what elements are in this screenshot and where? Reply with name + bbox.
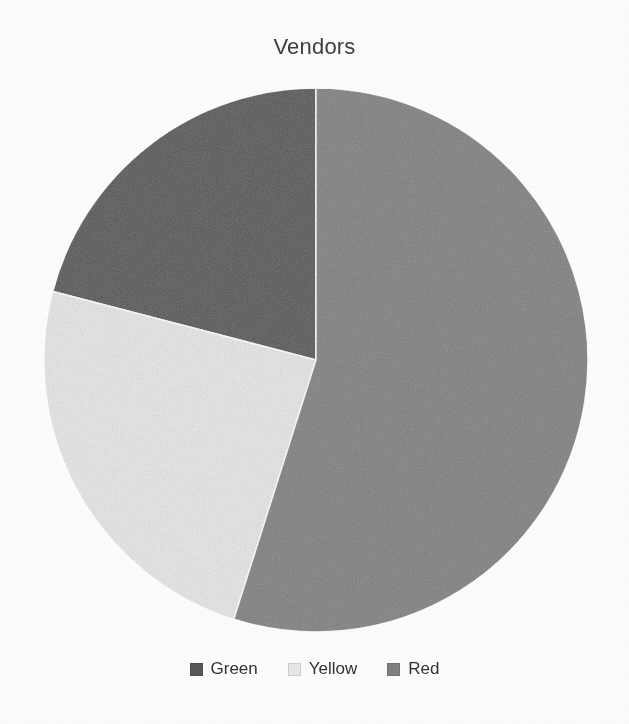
legend-label-yellow: Yellow xyxy=(309,659,358,679)
legend-item-red[interactable]: Red xyxy=(387,659,439,679)
legend-label-red: Red xyxy=(408,659,439,679)
legend-label-green: Green xyxy=(211,659,258,679)
chart-title: Vendors xyxy=(0,33,629,61)
legend-swatch-red-icon xyxy=(387,663,400,676)
legend-swatch-yellow-icon xyxy=(288,663,301,676)
legend-swatch-green-icon xyxy=(190,663,203,676)
legend-item-green[interactable]: Green xyxy=(190,659,258,679)
pie-plot-area xyxy=(44,88,588,632)
legend-item-yellow[interactable]: Yellow xyxy=(288,659,358,679)
pie-chart-figure: has the been a Minnesota and how that as… xyxy=(0,0,629,724)
pie-grain-overlay xyxy=(44,88,588,632)
chart-legend: GreenYellowRed xyxy=(0,659,629,679)
pie-svg xyxy=(44,88,588,632)
